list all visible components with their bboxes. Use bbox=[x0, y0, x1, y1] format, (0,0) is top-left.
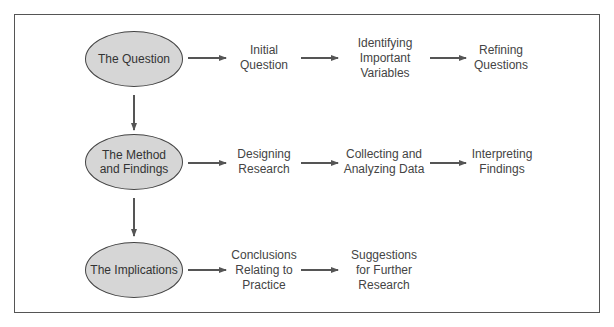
step-collecting-analyzing: Collecting and Analyzing Data bbox=[344, 147, 425, 177]
stage-label: The Question bbox=[98, 52, 170, 66]
step-identifying-variables: Identifying Important Variables bbox=[358, 36, 413, 81]
step-initial-question: Initial Question bbox=[240, 43, 288, 73]
stage-implications: The Implications bbox=[85, 242, 183, 298]
step-suggestions-research: Suggestions for Further Research bbox=[351, 248, 417, 293]
step-designing-research: Designing Research bbox=[237, 147, 290, 177]
stage-the-question: The Question bbox=[85, 31, 183, 87]
step-refining-questions: Refining Questions bbox=[474, 43, 528, 73]
step-interpreting-findings: Interpreting Findings bbox=[472, 147, 533, 177]
stage-method-findings: The Method and Findings bbox=[85, 134, 183, 190]
step-conclusions-practice: Conclusions Relating to Practice bbox=[231, 248, 296, 293]
stage-label: The Method and Findings bbox=[100, 148, 169, 176]
stage-label: The Implications bbox=[90, 263, 177, 277]
